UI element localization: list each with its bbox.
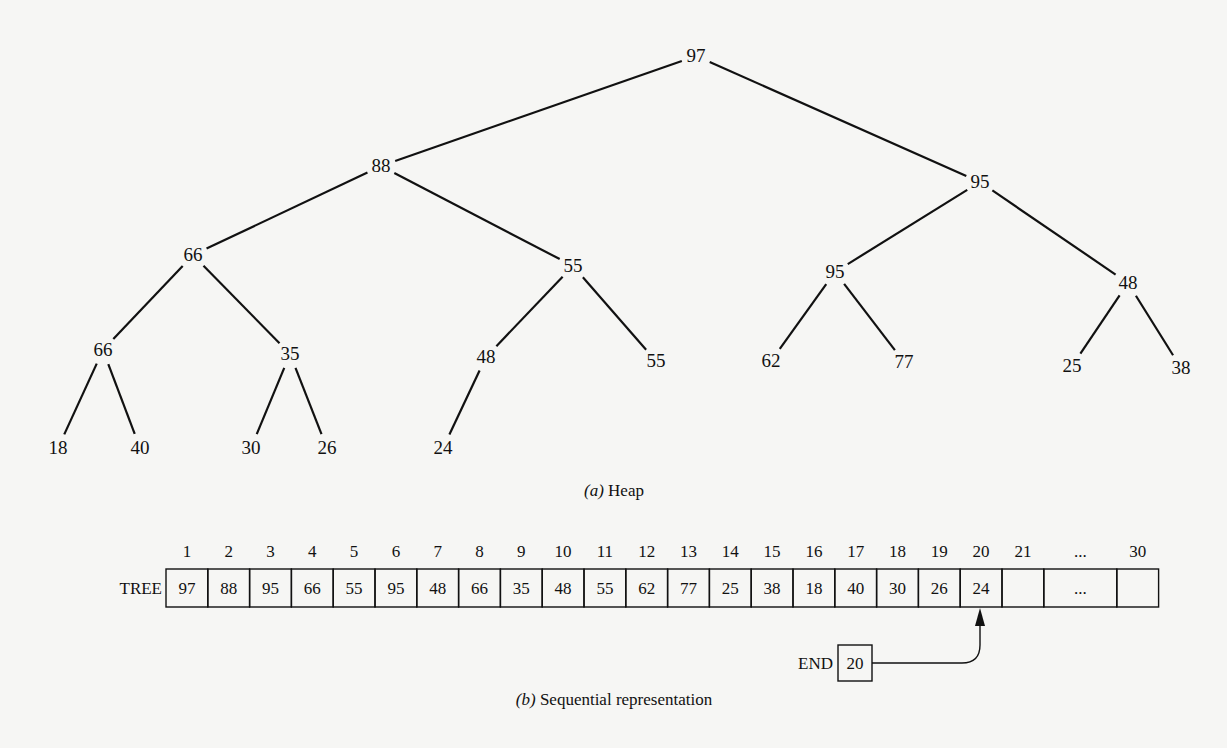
tree-node: 66 bbox=[184, 244, 203, 265]
array-caption: (b) Sequential representation bbox=[516, 690, 713, 709]
tree-node: 95 bbox=[971, 171, 990, 192]
array-index-label: 13 bbox=[680, 542, 697, 561]
array-cell-value: 24 bbox=[973, 579, 991, 598]
tree-edge bbox=[780, 284, 826, 349]
array-index-label: 21 bbox=[1014, 542, 1031, 561]
tree-edge bbox=[108, 364, 134, 434]
array-cell-value: 55 bbox=[346, 579, 363, 598]
tree-edge bbox=[113, 266, 182, 339]
array-index-label: 14 bbox=[722, 542, 740, 561]
array-index-label: 2 bbox=[224, 542, 233, 561]
tree-array-label: TREE bbox=[120, 579, 163, 598]
tree-edge bbox=[395, 61, 682, 161]
array-index-label: 30 bbox=[1129, 542, 1146, 561]
tree-node: 38 bbox=[1172, 357, 1191, 378]
tree-node: 18 bbox=[49, 437, 68, 458]
tree-node: 55 bbox=[647, 350, 666, 371]
array-cell-box bbox=[1002, 569, 1044, 607]
tree-edge bbox=[1136, 296, 1173, 356]
tree-node: 48 bbox=[477, 346, 496, 367]
end-label: END bbox=[798, 654, 833, 673]
array-index-label: 12 bbox=[638, 542, 655, 561]
array-cell-value: 48 bbox=[555, 579, 572, 598]
array-index-label: 17 bbox=[847, 542, 865, 561]
array-index-label: 5 bbox=[350, 542, 359, 561]
tree-node: 30 bbox=[242, 437, 261, 458]
heap-caption-text: Heap bbox=[604, 481, 644, 500]
heap-figure: 9788956655954866354855627725381840302624… bbox=[0, 0, 1227, 748]
tree-node: 66 bbox=[94, 339, 113, 360]
tree-edge bbox=[710, 62, 967, 176]
end-pointer-value: 20 bbox=[847, 654, 864, 673]
array-cell-value: 97 bbox=[178, 579, 196, 598]
array-cell-value: 66 bbox=[471, 579, 488, 598]
array-index-label: 15 bbox=[764, 542, 781, 561]
array-cell-value: 77 bbox=[680, 579, 698, 598]
heap-caption-prefix: (a) bbox=[584, 481, 604, 500]
heap-edges bbox=[64, 61, 1173, 434]
array-index-label: 20 bbox=[973, 542, 990, 561]
tree-node: 95 bbox=[826, 261, 845, 282]
tree-edge bbox=[1080, 295, 1119, 353]
tree-node: 48 bbox=[1119, 272, 1138, 293]
array-cell-value: 48 bbox=[429, 579, 446, 598]
array-index-label: 3 bbox=[266, 542, 275, 561]
tree-edge bbox=[449, 371, 479, 435]
tree-edge bbox=[844, 284, 895, 350]
array-cell-value: 35 bbox=[513, 579, 530, 598]
array-cell-value: 95 bbox=[387, 579, 404, 598]
array-index-label: 9 bbox=[517, 542, 526, 561]
tree-edge bbox=[848, 190, 968, 264]
tree-node: 77 bbox=[895, 351, 914, 372]
array-index-label: 11 bbox=[597, 542, 613, 561]
array-indices: 123456789101112131415161718192021...30 bbox=[183, 542, 1147, 561]
array-cell-value: 18 bbox=[805, 579, 822, 598]
tree-edge bbox=[394, 173, 559, 259]
array-cell-value: 95 bbox=[262, 579, 279, 598]
tree-node: 24 bbox=[434, 437, 454, 458]
array-cells: 9788956655954866354855627725381840302624… bbox=[166, 569, 1159, 607]
array-cell-value: 38 bbox=[764, 579, 781, 598]
array-cell-value: 40 bbox=[847, 579, 864, 598]
arrowhead-icon bbox=[975, 608, 985, 626]
array-index-label: 18 bbox=[889, 542, 906, 561]
array-caption-text: Sequential representation bbox=[536, 690, 713, 709]
tree-edge bbox=[295, 368, 321, 434]
tree-node: 55 bbox=[564, 255, 583, 276]
tree-node: 26 bbox=[318, 437, 337, 458]
array-index-label: 10 bbox=[555, 542, 572, 561]
array-cell-value: 66 bbox=[304, 579, 321, 598]
array-index-label: ... bbox=[1074, 542, 1087, 561]
array-caption-prefix: (b) bbox=[516, 690, 536, 709]
tree-edge bbox=[496, 277, 562, 346]
array-index-label: 4 bbox=[308, 542, 317, 561]
tree-node: 40 bbox=[131, 437, 150, 458]
array-cell-value: 55 bbox=[596, 579, 613, 598]
array-index-label: 1 bbox=[183, 542, 192, 561]
array-cell-value: 25 bbox=[722, 579, 739, 598]
end-pointer-arrow bbox=[872, 622, 980, 663]
tree-edge bbox=[203, 266, 279, 344]
array-cell-value: 26 bbox=[931, 579, 948, 598]
heap-nodes: 9788956655954866354855627725381840302624 bbox=[49, 45, 1191, 458]
array-cell-value: ... bbox=[1074, 579, 1087, 598]
array-index-label: 8 bbox=[475, 542, 484, 561]
array-cell-box bbox=[1117, 569, 1159, 607]
tree-edge bbox=[257, 368, 285, 434]
heap-caption: (a) Heap bbox=[584, 481, 644, 500]
array-index-label: 16 bbox=[805, 542, 822, 561]
tree-node: 88 bbox=[372, 155, 391, 176]
tree-edge bbox=[64, 364, 96, 435]
array-cell-value: 62 bbox=[638, 579, 655, 598]
tree-edge bbox=[583, 277, 646, 349]
tree-edge bbox=[992, 190, 1115, 274]
tree-node: 35 bbox=[281, 343, 300, 364]
tree-edge bbox=[207, 172, 368, 248]
tree-node: 25 bbox=[1063, 355, 1082, 376]
array-index-label: 7 bbox=[433, 542, 442, 561]
tree-node: 62 bbox=[762, 350, 781, 371]
tree-node: 97 bbox=[687, 45, 706, 66]
array-cell-value: 30 bbox=[889, 579, 906, 598]
array-index-label: 19 bbox=[931, 542, 948, 561]
array-cell-value: 88 bbox=[220, 579, 237, 598]
